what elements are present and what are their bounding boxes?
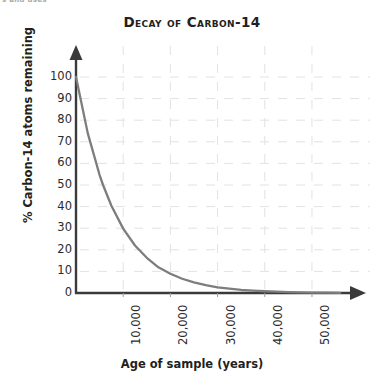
x-tick-label: 10,000 [129, 285, 143, 345]
x-tick-label: 30,000 [224, 285, 238, 345]
x-tick-label: 50,000 [318, 285, 332, 345]
y-axis-title: % Carbon-14 atoms remaining [21, 15, 35, 235]
chart-figure: s and uses Decay of Carbon-14 0102030405… [0, 0, 384, 386]
x-tick-label: 20,000 [176, 285, 190, 345]
x-axis-tick-labels: 10,00020,00030,00040,00050,000 [0, 0, 384, 386]
x-axis-title: Age of sample (years) [0, 357, 384, 371]
x-tick-label: 40,000 [271, 285, 285, 345]
